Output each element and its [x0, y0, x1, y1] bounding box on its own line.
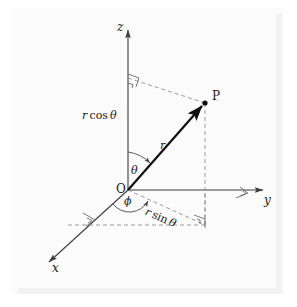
- theta-label: θ: [131, 165, 138, 176]
- figure-plate-shadow-bottom: [18, 288, 282, 294]
- z-axis-label: z: [117, 21, 123, 33]
- phi-label: ϕ: [124, 196, 132, 207]
- r-cos-theta-label: r cos θ: [82, 110, 117, 121]
- x-axis-label: x: [52, 262, 59, 274]
- spherical-coordinates-figure: z y x O P r θ ϕ r cos θ r sin θ: [0, 0, 297, 307]
- origin-label: O: [116, 183, 126, 195]
- point-p-label: P: [212, 90, 220, 102]
- r-cos-theta-angle: θ: [110, 109, 117, 122]
- diagram-canvas: [0, 0, 297, 307]
- r-cos-theta-fn: cos: [89, 109, 107, 122]
- figure-plate-shadow: [276, 14, 282, 294]
- figure-plate: [12, 8, 284, 294]
- radius-label: r: [160, 140, 165, 151]
- point-p-marker: [202, 100, 207, 105]
- y-axis-label: y: [264, 194, 271, 206]
